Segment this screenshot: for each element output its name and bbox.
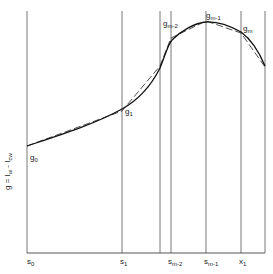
x-label-s0: s0: [27, 257, 35, 267]
true-curve: [27, 22, 265, 146]
point-label-gm: gm: [243, 24, 252, 34]
x-label-sm2: sm-2: [168, 257, 183, 267]
vertical-gridlines: [27, 11, 265, 253]
x-label-s1: s1: [120, 257, 128, 267]
point-label-g0: g0: [30, 153, 38, 163]
point-label-gm1: gm-1: [206, 11, 221, 21]
spline-approximation-diagram: g = Iw - Icw g0 g1 gm-2 gm-1 gm s0 s1 sm…: [0, 0, 273, 274]
x-label-sm1: sm-1: [204, 257, 219, 267]
x-label-x1: x1: [239, 257, 247, 267]
point-label-g1: g1: [125, 107, 133, 117]
piecewise-approximation-line: [27, 21, 265, 146]
y-axis-label: g = Iw - Icw: [3, 153, 13, 190]
